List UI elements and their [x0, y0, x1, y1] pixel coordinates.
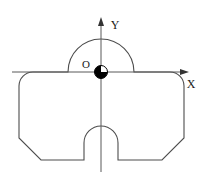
- origin-marker: [95, 66, 108, 79]
- y-axis-label: Y: [111, 18, 120, 32]
- drawing-canvas: X Y O: [0, 0, 211, 183]
- origin-marker-quadrant-lower-right: [101, 72, 108, 79]
- origin-label: O: [82, 58, 90, 70]
- y-axis-arrowhead: [98, 17, 104, 26]
- technical-drawing-figure: X Y O: [0, 0, 211, 183]
- x-axis-arrowhead: [180, 69, 189, 75]
- x-axis-label: X: [187, 77, 196, 91]
- origin-marker-quadrant-upper-left: [95, 66, 102, 73]
- axes-group: [12, 17, 189, 172]
- origin-marker-quadrant-lower-left: [95, 72, 102, 79]
